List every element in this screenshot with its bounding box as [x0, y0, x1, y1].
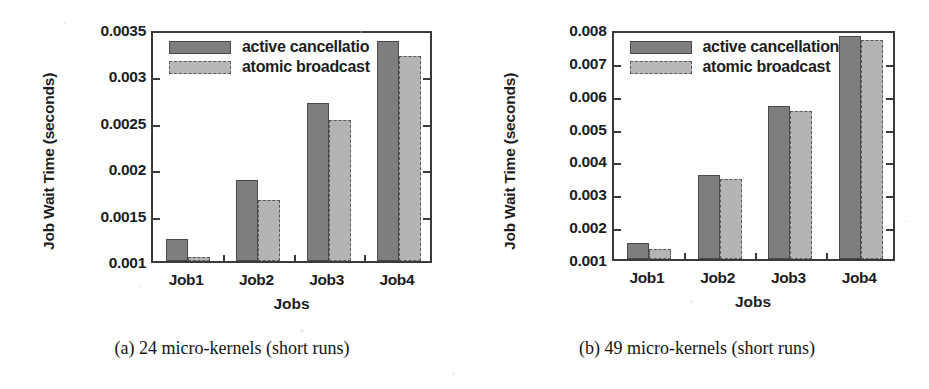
y-axis-tick-label: 0.004: [569, 153, 606, 171]
y-axis-tick-mark: [423, 125, 430, 127]
bar-job3-series2: [790, 111, 812, 259]
x-axis-tick-mark: [684, 253, 686, 259]
bar-job4-series2: [399, 56, 421, 261]
y-axis-tick-mark: [886, 229, 893, 231]
y-axis-tick-label: 0.003: [109, 68, 146, 86]
scan-artifact: [360, 31, 362, 33]
x-axis-tick-label: Job3: [771, 269, 806, 287]
y-axis-tick-mark: [423, 171, 430, 173]
y-axis-tick-mark: [153, 218, 160, 220]
y-axis-tick-label: 0.0025: [100, 115, 146, 133]
plot-area: active cancellationatomic broadcast: [612, 31, 895, 261]
y-axis-tick-mark: [153, 125, 160, 127]
bar-job1-series1: [166, 239, 188, 261]
x-axis-tick-mark: [364, 255, 366, 261]
scan-artifact: [63, 22, 66, 25]
y-axis-tick-label: 0.003: [569, 186, 606, 204]
bar-job3-series1: [768, 106, 790, 259]
legend-item: active cancellatio: [169, 39, 369, 55]
bar-job1-series2: [188, 257, 210, 261]
y-axis-tick-mark: [614, 196, 621, 198]
legend: active cancellationatomic broadcast: [630, 39, 895, 81]
legend-label: active cancellation: [703, 39, 840, 56]
bar-job3-series2: [329, 120, 351, 261]
scan-artifact: [905, 220, 907, 222]
y-axis-tick-label: 0.007: [569, 55, 606, 73]
x-axis-tick-mark: [294, 255, 296, 261]
scan-artifact: [690, 300, 693, 303]
legend-item: active cancellation: [630, 39, 840, 55]
y-axis-tick-label: 0.008: [569, 22, 606, 40]
y-axis-tick-mark: [153, 78, 160, 80]
figure-page: { "figure": { "panels": [ { "id": "panel…: [0, 0, 929, 389]
legend-item: atomic broadcast: [630, 59, 831, 75]
y-axis-tick-mark: [423, 218, 430, 220]
chart-panel-a: Job Wait Time (seconds)0.0010.00150.0020…: [0, 0, 465, 320]
y-axis-tick-mark: [614, 229, 621, 231]
legend-swatch-icon: [169, 41, 231, 54]
y-axis-tick-mark: [614, 163, 621, 165]
legend-swatch-icon: [630, 41, 692, 54]
y-axis-tick-label: 0.0015: [100, 208, 146, 226]
y-axis-tick-mark: [153, 171, 160, 173]
scan-artifact: [300, 329, 304, 333]
bar-job3-series1: [307, 103, 329, 261]
bar-job1-series1: [627, 243, 649, 259]
y-axis-tick-label: 0.002: [569, 219, 606, 237]
figure-caption-a: (a) 24 micro-kernels (short runs): [115, 338, 350, 359]
y-axis-tick-mark: [886, 196, 893, 198]
x-axis-tick-label: Job1: [629, 269, 664, 287]
x-axis-tick-label: Job4: [379, 271, 414, 289]
scan-artifact: [828, 64, 830, 66]
legend-label: active cancellatio: [242, 39, 369, 56]
legend-label: atomic broadcast: [703, 58, 831, 76]
legend-swatch-icon: [169, 61, 231, 74]
scan-artifact: [140, 286, 142, 288]
bar-job2-series2: [258, 200, 280, 261]
y-axis-tick-mark: [614, 131, 621, 133]
bar-job1-series2: [649, 249, 671, 260]
bar-job2-series1: [236, 180, 258, 261]
legend-swatch-icon: [630, 61, 692, 74]
y-axis-tick-label: 0.001: [109, 254, 146, 272]
x-axis-tick-label: Job4: [842, 269, 877, 287]
x-axis-tick-label: Job2: [700, 269, 735, 287]
x-axis-tick-mark: [223, 255, 225, 261]
y-axis-tick-labels: 0.0010.0020.0030.0040.0050.0060.0070.008: [465, 0, 607, 320]
legend: active cancellatioatomic broadcast: [169, 39, 432, 81]
figure-panels-row: Job Wait Time (seconds)0.0010.00150.0020…: [0, 0, 929, 320]
y-axis-tick-label: 0.002: [109, 161, 146, 179]
plot-area: active cancellatioatomic broadcast: [151, 31, 432, 263]
y-axis-tick-mark: [886, 131, 893, 133]
y-axis-tick-label: 0.006: [569, 88, 606, 106]
figure-caption-b: (b) 49 micro-kernels (short runs): [579, 338, 815, 359]
y-axis-tick-mark: [886, 163, 893, 165]
x-axis-title: Jobs: [273, 295, 309, 313]
bar-job2-series1: [698, 175, 720, 259]
y-axis-tick-label: 0.005: [569, 121, 606, 139]
y-axis-tick-mark: [614, 98, 621, 100]
x-axis-tick-label: Job2: [239, 271, 274, 289]
bar-job2-series2: [720, 179, 742, 260]
x-axis-tick-label: Job1: [169, 271, 204, 289]
x-axis-tick-label: Job3: [309, 271, 344, 289]
y-axis-tick-labels: 0.0010.00150.0020.00250.0030.0035: [0, 0, 146, 320]
scan-artifact: [452, 372, 455, 375]
x-axis-title: Jobs: [735, 293, 771, 311]
y-axis-tick-mark: [614, 65, 621, 67]
chart-panel-b: Job Wait Time (seconds)0.0010.0020.0030.…: [465, 0, 929, 320]
legend-label: atomic broadcast: [242, 58, 370, 76]
y-axis-tick-mark: [886, 98, 893, 100]
y-axis-tick-label: 0.001: [569, 252, 606, 270]
legend-item: atomic broadcast: [169, 59, 370, 75]
x-axis-tick-mark: [826, 253, 828, 259]
x-axis-tick-mark: [755, 253, 757, 259]
y-axis-tick-label: 0.0035: [100, 22, 146, 40]
